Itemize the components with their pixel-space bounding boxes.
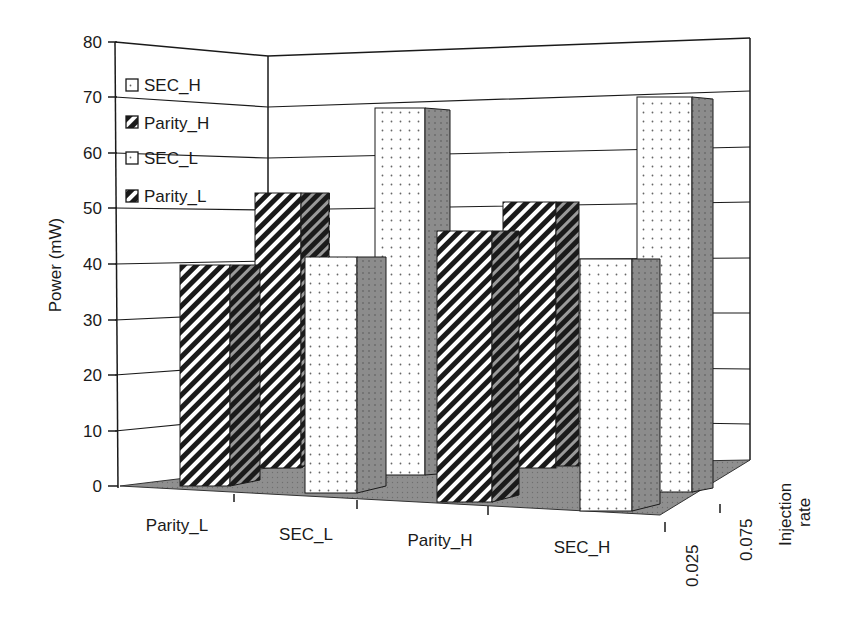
z-label-0075: 0.075 (737, 518, 756, 561)
z-ticks (665, 504, 720, 532)
y-tick-30: 30 (83, 311, 102, 330)
svg-text:Parity_H: Parity_H (144, 114, 209, 133)
x-label-sec-h: SEC_H (554, 538, 611, 557)
svg-text:SEC_H: SEC_H (144, 76, 201, 95)
x-label-parity-l: Parity_L (146, 516, 208, 535)
y-tick-20: 20 (83, 366, 102, 385)
y-tick-80: 80 (83, 33, 102, 52)
chart: 80 70 60 50 40 30 20 10 0 Power (mW) (0, 0, 863, 621)
dots-swatch-icon (126, 79, 138, 91)
y-tick-40: 40 (83, 255, 102, 274)
y-tick-0: 0 (93, 477, 102, 496)
stripes-swatch-icon (126, 116, 138, 128)
y-tick-70: 70 (83, 88, 102, 107)
z-axis-title-line1: Injection (776, 483, 795, 546)
y-tick-labels: 80 70 60 50 40 30 20 10 0 (83, 33, 102, 496)
y-tick-50: 50 (83, 199, 102, 218)
dots-swatch-icon (126, 152, 138, 164)
svg-text:SEC_L: SEC_L (144, 149, 198, 168)
y-tick-10: 10 (83, 422, 102, 441)
y-axis-title: Power (mW) (46, 218, 65, 312)
x-label-parity-h: Parity_H (407, 531, 472, 550)
z-axis-title-line2: rate (795, 498, 814, 527)
x-labels: Parity_L SEC_L Parity_H SEC_H (146, 516, 611, 557)
stripes-swatch-icon (126, 190, 138, 202)
bar-sec-l-0025 (305, 257, 386, 493)
y-tick-60: 60 (83, 144, 102, 163)
bar-parity-l-0025 (180, 265, 260, 486)
z-label-0025: 0.025 (683, 544, 702, 587)
bar-sec-h-0025 (580, 259, 660, 511)
bar-parity-h-0025 (437, 231, 519, 502)
svg-text:Parity_L: Parity_L (144, 187, 206, 206)
z-labels: 0.025 0.075 Injection rate (683, 483, 814, 587)
x-label-sec-l: SEC_L (279, 525, 333, 544)
